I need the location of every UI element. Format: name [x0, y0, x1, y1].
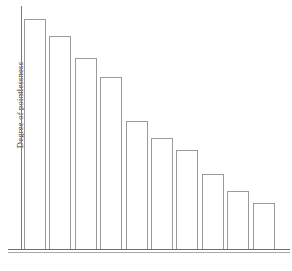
bar: Facial6	[151, 138, 173, 249]
plot-area: Pedicure1Colonic irrigation2Facial waxin…	[0, 0, 292, 249]
bar-chart: Degree of pointlessness Pedicure1Colonic…	[0, 0, 292, 271]
x-axis-line	[8, 249, 290, 250]
bar: Manicure5	[126, 121, 148, 249]
bar: Leg wax7	[176, 150, 198, 249]
bar: Any all-over body treatment(including sc…	[100, 77, 122, 249]
bar: Facial waxing (excluding eyebrows)3	[75, 58, 97, 249]
bar: Massage10	[253, 203, 275, 249]
bar: Pedicure1	[24, 19, 46, 249]
bar: Eyebrowshaping9	[227, 191, 249, 249]
x-axis-baseline-secondary	[8, 252, 290, 253]
bar: Bikini wax8	[202, 174, 224, 249]
bar: Colonic irrigation2	[49, 36, 71, 249]
